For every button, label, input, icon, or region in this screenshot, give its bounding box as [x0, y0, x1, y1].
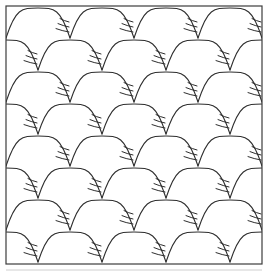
clamshell-pattern-figure: Clamshell quilting pattern swatch [0, 0, 268, 273]
pattern-canvas: Clamshell quilting pattern swatch [0, 0, 268, 273]
